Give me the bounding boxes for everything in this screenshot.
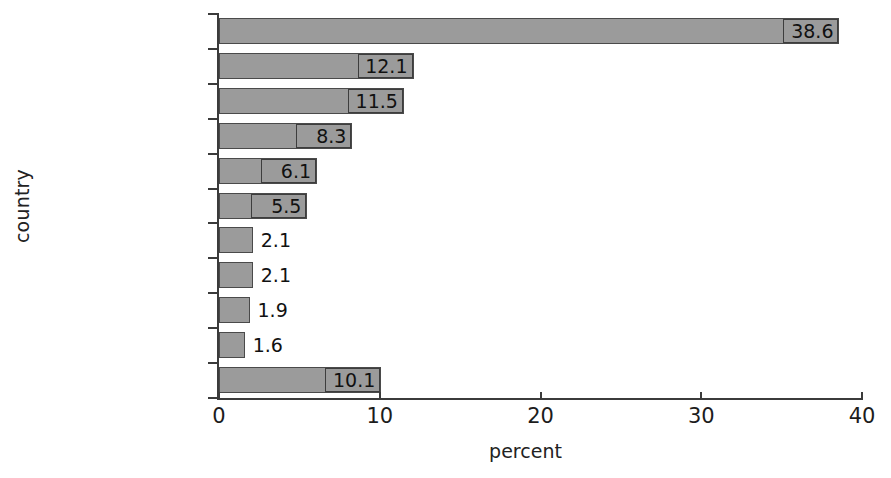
y-tick (208, 327, 218, 329)
x-tick-label: 10 (350, 404, 410, 428)
y-tick (208, 362, 218, 364)
y-tick (208, 292, 218, 294)
x-tick-label: 30 (671, 404, 731, 428)
x-tick (700, 392, 702, 400)
y-tick (208, 83, 218, 85)
x-tick (379, 392, 381, 400)
bar-value-label: 12.1 (358, 54, 413, 78)
x-tick-label: 40 (832, 404, 891, 428)
bar-chart: country Philippines38.6Brazil12.1Nigeria… (0, 0, 891, 478)
bar-value-label: 1.6 (253, 332, 283, 358)
bar-value-label: 8.3 (296, 124, 351, 148)
bar-value-label: 10.1 (325, 368, 380, 392)
x-tick-label: 0 (189, 404, 249, 428)
bar-value-label: 2.1 (261, 227, 291, 253)
x-tick (861, 392, 863, 400)
y-tick (208, 13, 218, 15)
bar-value-label: 38.6 (783, 19, 838, 43)
y-tick (208, 257, 218, 259)
x-axis-title: percent (0, 440, 891, 462)
x-tick-label: 20 (511, 404, 571, 428)
bar (219, 18, 839, 44)
y-tick (208, 222, 218, 224)
x-tick (218, 392, 220, 400)
y-axis-title: country (11, 146, 33, 266)
bar-value-label: 5.5 (251, 194, 306, 218)
bar (219, 262, 253, 288)
bar-value-label: 11.5 (348, 89, 403, 113)
bar-value-label: 6.1 (261, 159, 316, 183)
x-tick (540, 392, 542, 400)
y-tick (208, 397, 218, 399)
bar (219, 332, 245, 358)
x-axis-title-text: percent (489, 440, 562, 462)
bar (219, 227, 253, 253)
bar-value-label: 2.1 (261, 262, 291, 288)
y-tick (208, 188, 218, 190)
y-tick (208, 48, 218, 50)
y-tick (208, 153, 218, 155)
y-tick (208, 118, 218, 120)
bar-value-label: 1.9 (258, 297, 288, 323)
bar (219, 297, 250, 323)
